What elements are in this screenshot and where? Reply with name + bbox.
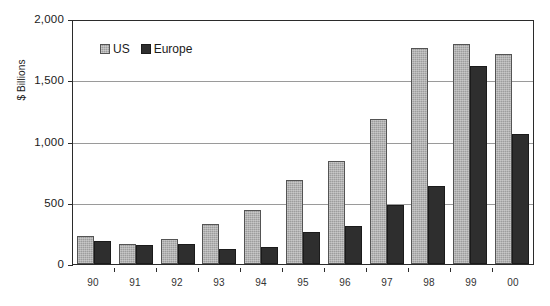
y-axis-tick-label: 1,500 [18, 75, 64, 86]
bar-europe-96 [345, 226, 362, 264]
x-axis-tick-label: 94 [240, 268, 282, 290]
x-axis-tick-mark [450, 268, 451, 272]
bar-chart: $ Billions 05001,0001,5002,000 909192939… [0, 0, 550, 306]
bar-us-91 [119, 244, 136, 264]
bar-europe-98 [428, 186, 445, 264]
bar-europe-94 [261, 247, 278, 264]
bar-group [198, 20, 240, 264]
x-axis-tick-label: 99 [450, 268, 492, 290]
legend-swatch-europe-icon [141, 44, 151, 54]
x-axis-tick-mark [156, 268, 157, 272]
x-axis-tick-label: 92 [156, 268, 198, 290]
bar-us-90 [77, 236, 94, 264]
bar-europe-00 [512, 134, 529, 264]
y-axis-title: $ Billions [2, 0, 13, 25]
x-axis-tick-label: 91 [114, 268, 156, 290]
bar-europe-93 [219, 249, 236, 264]
x-axis-tick-mark [114, 268, 115, 272]
x-axis-tick-mark [408, 268, 409, 272]
bar-group [366, 20, 408, 264]
plot-area [73, 20, 533, 264]
x-axis-tick-label: 97 [366, 268, 408, 290]
bar-group [115, 20, 157, 264]
chart-legend: USEurope [100, 42, 198, 56]
bar-europe-97 [387, 205, 404, 264]
x-axis-tick-mark [492, 268, 493, 272]
bar-us-00 [495, 54, 512, 264]
x-axis-tick-mark [366, 268, 367, 272]
bar-europe-99 [470, 66, 487, 264]
y-axis-tick-label: 0 [18, 259, 64, 270]
x-axis-tick-label: 00 [492, 268, 534, 290]
legend-label: US [113, 42, 130, 56]
bar-europe-91 [136, 245, 153, 264]
bar-group [240, 20, 282, 264]
bar-us-92 [161, 239, 178, 264]
bar-group [449, 20, 491, 264]
x-axis-tick-label: 95 [282, 268, 324, 290]
bar-us-93 [202, 224, 219, 264]
bar-us-97 [370, 119, 387, 264]
x-axis-tick-label: 96 [324, 268, 366, 290]
y-axis-tick-mark [68, 265, 73, 266]
x-axis-tick-mark [324, 268, 325, 272]
legend-item-us: US [100, 42, 130, 56]
bar-us-95 [286, 180, 303, 264]
x-axis-tick-mark [282, 268, 283, 272]
y-axis-tick-label: 500 [18, 198, 64, 209]
legend-item-europe: Europe [141, 42, 193, 56]
bar-us-96 [328, 161, 345, 264]
x-axis-tick-label: 93 [198, 268, 240, 290]
plot-area-frame [72, 20, 534, 265]
bar-us-99 [453, 44, 470, 264]
bar-us-94 [244, 210, 261, 264]
x-axis-tick-label: 90 [72, 268, 114, 290]
bar-europe-90 [94, 241, 111, 264]
legend-label: Europe [154, 42, 193, 56]
bar-group [73, 20, 115, 264]
y-axis-tick-label: 1,000 [18, 137, 64, 148]
x-axis-tick-mark [198, 268, 199, 272]
bar-groups [73, 20, 533, 264]
y-axis-tick-label: 2,000 [18, 14, 64, 25]
bar-group [491, 20, 533, 264]
bar-us-98 [411, 48, 428, 264]
x-axis-tick-labels: 9091929394959697989900 [72, 268, 534, 290]
x-axis-tick-label: 98 [408, 268, 450, 290]
bar-group [408, 20, 450, 264]
bar-group [324, 20, 366, 264]
legend-swatch-us-icon [100, 44, 110, 54]
bar-europe-95 [303, 232, 320, 264]
bar-europe-92 [178, 244, 195, 264]
bar-group [282, 20, 324, 264]
x-axis-tick-mark [240, 268, 241, 272]
bar-group [157, 20, 199, 264]
